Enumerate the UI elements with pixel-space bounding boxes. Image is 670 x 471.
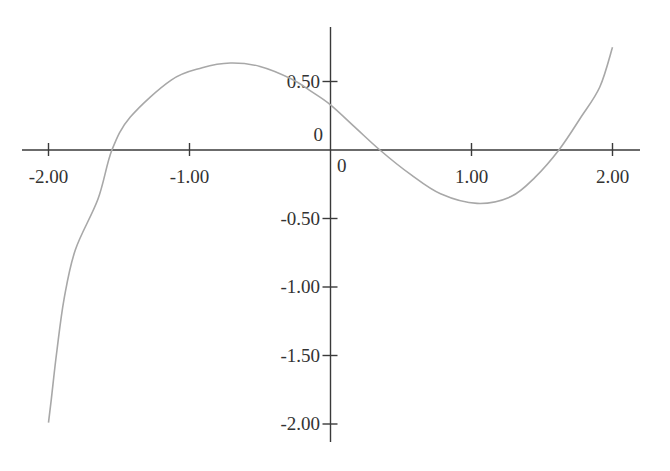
- axes: [22, 27, 640, 442]
- x-origin-label: 0: [337, 155, 347, 176]
- y-origin-label: 0: [314, 124, 324, 145]
- x-tick-label: -2.00: [29, 166, 69, 187]
- y-tick-label: -2.00: [280, 413, 320, 434]
- x-tick-label: 1.00: [455, 166, 488, 187]
- y-tick-label: -0.50: [280, 208, 320, 229]
- x-tick-label: 2.00: [596, 166, 629, 187]
- function-plot: -2.00-1.001.002.00 0.50-0.50-1.00-1.50-2…: [0, 0, 670, 471]
- y-tick-label: 0.50: [287, 71, 320, 92]
- y-tick-label: -1.50: [280, 345, 320, 366]
- y-tick-label: -1.00: [280, 276, 320, 297]
- y-ticks: 0.50-0.50-1.00-1.50-2.00: [280, 71, 337, 435]
- x-tick-label: -1.00: [170, 166, 210, 187]
